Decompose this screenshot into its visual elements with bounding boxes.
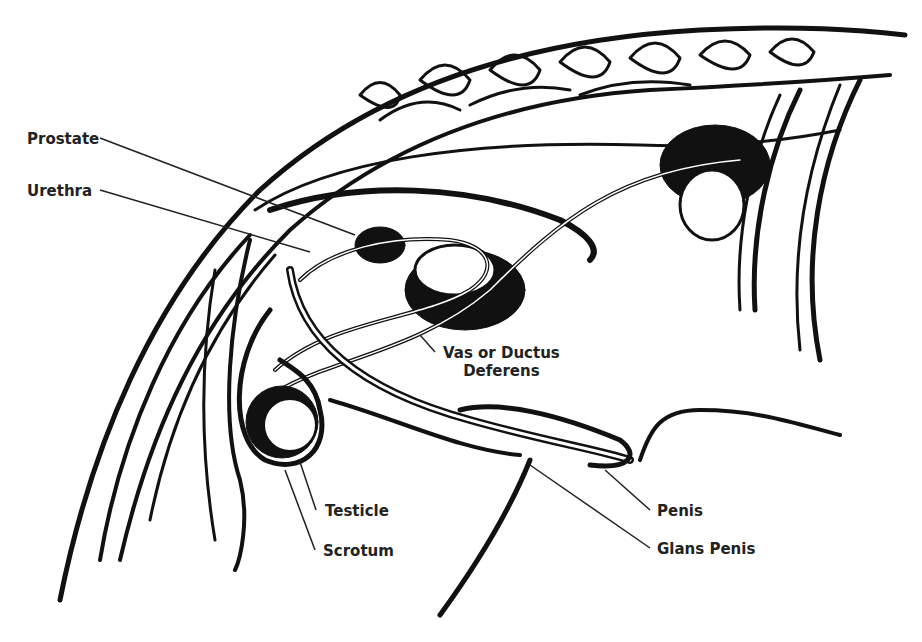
leader-vas [420, 335, 435, 352]
label-penis: Penis [657, 502, 703, 520]
bladder [680, 170, 744, 240]
leader-glans [530, 465, 650, 548]
label-urethra: Urethra [27, 182, 92, 200]
leader-penis [605, 470, 650, 510]
leader-scrotum [285, 470, 315, 550]
label-glans-penis: Glans Penis [657, 540, 755, 558]
anatomy-drawing [0, 0, 922, 642]
leader-prostate [100, 138, 355, 235]
leader-testicle [300, 462, 316, 510]
label-testicle: Testicle [325, 502, 389, 520]
label-vas-deferens: Vas or Ductus Deferens [443, 344, 560, 380]
label-prostate: Prostate [27, 130, 99, 148]
vertebrae [360, 39, 814, 120]
label-vas-line2: Deferens [443, 362, 560, 380]
label-vas-line1: Vas or Ductus [443, 344, 560, 362]
label-scrotum: Scrotum [323, 542, 394, 560]
leader-urethra [100, 190, 310, 252]
